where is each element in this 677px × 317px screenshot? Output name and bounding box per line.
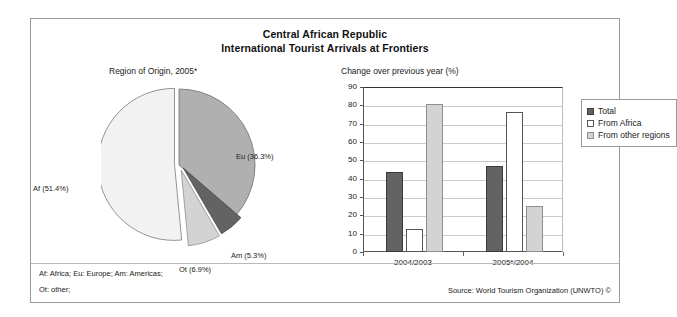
pie-label-eu: Eu (36.3%) bbox=[236, 152, 274, 161]
pie-slice-af bbox=[101, 88, 182, 240]
title-line-1: Central African Republic bbox=[31, 27, 619, 41]
pie-chart bbox=[101, 87, 261, 247]
legend-item-label: Total bbox=[598, 106, 616, 116]
y-axis-tick-mark bbox=[360, 179, 363, 180]
title-line-2: International Tourist Arrivals at Fronti… bbox=[31, 41, 619, 55]
y-axis-tick-mark bbox=[360, 142, 363, 143]
bar-other-2 bbox=[526, 206, 543, 252]
y-axis-tick-mark bbox=[360, 87, 363, 88]
pie-label-am: Am (5.3%) bbox=[231, 251, 266, 260]
y-axis-tick-label: 0 bbox=[331, 248, 357, 256]
abbreviation-note-line-1: Af: Africa; Eu: Europe; Am: Americas; bbox=[39, 269, 163, 278]
gridline bbox=[364, 125, 562, 126]
pie-label-af: Af (51.4%) bbox=[33, 184, 68, 193]
bar-chart-legend: TotalFrom AfricaFrom other regions bbox=[581, 99, 677, 147]
bar-chart-panel: 0102030405060708090 2004/20032005*/2004 … bbox=[331, 79, 651, 284]
page-title: Central African Republic International T… bbox=[31, 27, 619, 55]
legend-swatch-icon bbox=[587, 120, 594, 127]
bar-chart-caption: Change over previous year (%) bbox=[341, 66, 459, 76]
x-axis-tick-mark bbox=[463, 252, 464, 256]
bar-total-1 bbox=[386, 172, 403, 252]
y-axis-tick-label: 70 bbox=[331, 120, 357, 128]
gridline bbox=[364, 143, 562, 144]
y-axis-tick-label: 40 bbox=[331, 175, 357, 183]
x-axis-tick-mark bbox=[563, 252, 564, 256]
legend-swatch-icon bbox=[587, 132, 594, 139]
bar-total-2 bbox=[486, 166, 503, 252]
y-axis-tick-mark bbox=[360, 215, 363, 216]
y-axis-tick-label: 60 bbox=[331, 138, 357, 146]
legend-item-total: Total bbox=[587, 106, 670, 116]
y-axis-tick-label: 10 bbox=[331, 230, 357, 238]
bar-other-1 bbox=[426, 104, 443, 253]
footer-divider bbox=[31, 263, 619, 264]
legend-item-other: From other regions bbox=[587, 130, 670, 140]
gridline bbox=[364, 161, 562, 162]
pie-chart-svg bbox=[101, 87, 261, 247]
abbreviation-note-line-2: Ot: other; bbox=[39, 285, 70, 294]
legend-item-label: From Africa bbox=[598, 118, 641, 128]
pie-label-ot: Ot (6.9%) bbox=[179, 265, 211, 274]
x-axis-tick-mark bbox=[363, 252, 364, 256]
legend-item-label: From other regions bbox=[598, 130, 670, 140]
legend-swatch-icon bbox=[587, 108, 594, 115]
bar-africa-2 bbox=[506, 112, 523, 252]
pie-chart-caption: Region of Origin, 2005* bbox=[109, 66, 197, 76]
y-axis-tick-mark bbox=[360, 124, 363, 125]
bar-africa-1 bbox=[406, 229, 423, 252]
legend-item-africa: From Africa bbox=[587, 118, 670, 128]
bar-chart-plot-area bbox=[363, 87, 563, 252]
y-axis-tick-label: 30 bbox=[331, 193, 357, 201]
y-axis-tick-label: 80 bbox=[331, 101, 357, 109]
source-note: Source: World Tourism Organization (UNWT… bbox=[448, 286, 611, 295]
y-axis-tick-mark bbox=[360, 234, 363, 235]
y-axis-tick-mark bbox=[360, 160, 363, 161]
y-axis-tick-mark bbox=[360, 105, 363, 106]
y-axis-tick-label: 20 bbox=[331, 211, 357, 219]
y-axis-tick-label: 90 bbox=[331, 83, 357, 91]
chart-frame: Central African Republic International T… bbox=[30, 18, 620, 303]
gridline bbox=[364, 106, 562, 107]
y-axis-tick-mark bbox=[360, 197, 363, 198]
y-axis-tick-label: 50 bbox=[331, 156, 357, 164]
pie-chart-panel: Eu (36.3%) Af (51.4%) Am (5.3%) Ot (6.9%… bbox=[31, 79, 321, 269]
